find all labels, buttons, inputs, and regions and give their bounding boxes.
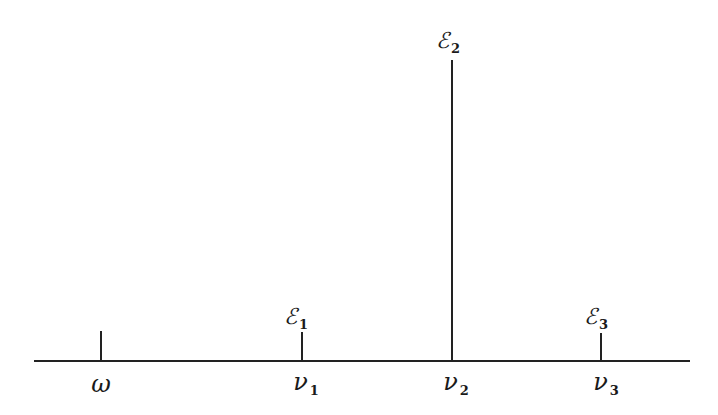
stem-nu3 — [600, 333, 602, 361]
nu2-subscript: 2 — [460, 383, 469, 398]
e2-subscript: 2 — [451, 41, 460, 56]
peak-label-e3: ℰ3 — [584, 306, 608, 331]
label-nu1: ν1 — [293, 370, 319, 397]
e3-symbol: ℰ — [584, 304, 597, 329]
e2-symbol: ℰ — [436, 28, 449, 53]
label-nu3: ν3 — [593, 370, 619, 397]
e3-subscript: 3 — [599, 317, 608, 332]
stem-nu1 — [301, 332, 303, 361]
label-nu2: ν2 — [443, 370, 469, 397]
nu2-symbol: ν — [443, 368, 458, 396]
nu1-subscript: 1 — [310, 383, 319, 398]
frequency-axis — [34, 360, 690, 362]
spectrum-diagram: ω ℰ1 ν1 ℰ2 ν2 ℰ3 ν3 — [0, 0, 718, 415]
e1-subscript: 1 — [299, 317, 308, 332]
stem-omega — [100, 331, 102, 361]
nu3-subscript: 3 — [610, 383, 619, 398]
omega-symbol: ω — [91, 370, 111, 398]
nu3-symbol: ν — [593, 368, 608, 396]
peak-label-e1: ℰ1 — [284, 306, 308, 331]
label-omega: ω — [91, 372, 111, 396]
peak-label-e2: ℰ2 — [436, 30, 460, 55]
e1-symbol: ℰ — [284, 304, 297, 329]
nu1-symbol: ν — [293, 368, 308, 396]
stem-nu2 — [451, 60, 453, 361]
